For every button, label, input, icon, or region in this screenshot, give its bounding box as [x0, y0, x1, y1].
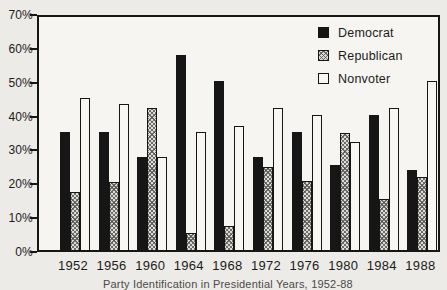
legend-label: Nonvoter — [338, 72, 390, 86]
y-axis-tick-mark — [30, 116, 37, 118]
x-axis-year-label: 1968 — [205, 258, 249, 273]
bar-nonvoter-1956 — [119, 104, 129, 250]
bar-nonvoter-1968 — [234, 126, 244, 250]
y-axis-tick-label: 10% — [0, 211, 33, 225]
bar-nonvoter-1984 — [389, 108, 399, 250]
y-axis-tick-label: 60% — [0, 42, 33, 56]
bar-nonvoter-1980 — [350, 142, 360, 250]
y-axis-tick-mark — [30, 183, 37, 185]
bar-republican-1960 — [147, 108, 157, 250]
legend-label: Republican — [338, 49, 403, 63]
democrat-swatch-icon — [318, 27, 329, 38]
bar-nonvoter-1960 — [157, 157, 167, 250]
legend: Democrat Republican Nonvoter — [318, 25, 403, 94]
legend-item-republican: Republican — [318, 48, 403, 63]
y-axis-tick-mark — [30, 251, 37, 253]
bar-republican-1972 — [263, 167, 273, 250]
bar-republican-1956 — [109, 182, 119, 250]
bar-nonvoter-1952 — [80, 98, 90, 250]
y-axis-tick-mark — [30, 82, 37, 84]
x-axis-year-label: 1976 — [283, 258, 327, 273]
bar-republican-1976 — [302, 181, 312, 250]
x-axis-year-label: 1956 — [90, 258, 134, 273]
legend-label: Democrat — [338, 26, 394, 40]
bar-democrat-1960 — [137, 157, 147, 250]
bar-democrat-1952 — [60, 132, 70, 251]
bar-democrat-1968 — [214, 81, 224, 250]
x-axis-year-label: 1960 — [128, 258, 172, 273]
y-axis-tick-mark — [30, 217, 37, 219]
y-axis-tick-label: 20% — [0, 177, 33, 191]
bar-republican-1968 — [224, 226, 234, 250]
legend-item-nonvoter: Nonvoter — [318, 71, 403, 86]
bar-republican-1952 — [70, 192, 80, 250]
y-axis-tick-label: 30% — [0, 143, 33, 157]
caption-clipped: Party Identification in Presidential Yea… — [103, 278, 353, 290]
x-axis-year-label: 1980 — [321, 258, 365, 273]
bar-democrat-1976 — [292, 132, 302, 251]
y-axis-tick-label: 0% — [0, 245, 33, 259]
x-axis-year-label: 1952 — [51, 258, 95, 273]
bar-nonvoter-1976 — [312, 115, 322, 250]
legend-item-democrat: Democrat — [318, 25, 403, 40]
bar-republican-1984 — [379, 199, 389, 250]
bar-democrat-1972 — [253, 157, 263, 250]
nonvoter-swatch-icon — [318, 73, 329, 84]
bar-republican-1964 — [186, 233, 196, 250]
x-axis-year-label: 1972 — [244, 258, 288, 273]
y-axis-tick-label: 40% — [0, 110, 33, 124]
y-axis-tick-label: 50% — [0, 76, 33, 90]
x-axis-year-label: 1964 — [167, 258, 211, 273]
bar-republican-1980 — [340, 133, 350, 250]
bar-democrat-1988 — [407, 170, 417, 250]
bar-nonvoter-1964 — [196, 132, 206, 251]
republican-swatch-icon — [318, 50, 329, 61]
bar-democrat-1980 — [330, 165, 340, 250]
y-axis-tick-mark — [30, 14, 37, 16]
bar-republican-1988 — [417, 177, 427, 250]
y-axis-tick-label: 70% — [0, 8, 33, 22]
x-axis-year-label: 1984 — [360, 258, 404, 273]
bar-democrat-1956 — [99, 132, 109, 251]
bar-democrat-1984 — [369, 115, 379, 250]
bar-nonvoter-1972 — [273, 108, 283, 250]
y-axis-tick-mark — [30, 48, 37, 50]
y-axis-tick-mark — [30, 149, 37, 151]
bar-nonvoter-1988 — [427, 81, 437, 250]
x-axis-year-label: 1988 — [398, 258, 442, 273]
bar-democrat-1964 — [176, 55, 186, 250]
